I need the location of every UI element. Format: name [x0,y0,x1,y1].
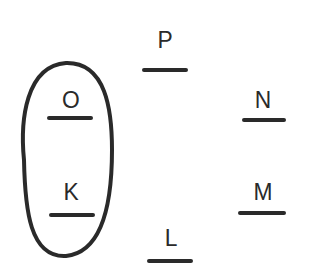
node-underline-l [147,259,193,263]
node-underline-k [49,213,95,217]
node-label-n: N [241,88,285,112]
node-underline-n [242,118,286,122]
node-label-k: K [49,180,93,204]
node-underline-m [238,211,286,215]
node-underline-o [47,116,93,120]
node-label-m: M [241,180,285,204]
node-label-p: P [143,28,187,52]
node-label-l: L [149,226,193,250]
node-label-o: O [49,88,93,112]
node-underline-p [142,68,188,72]
